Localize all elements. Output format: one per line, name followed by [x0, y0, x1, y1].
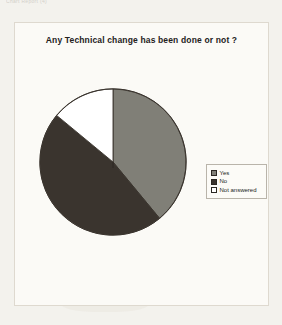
- chart-frame: Any Technical change has been done or no…: [14, 22, 269, 306]
- scanned-page: Chart Report (4) Any Technical change ha…: [0, 0, 282, 325]
- chart-legend: Yes No Not answered: [206, 164, 267, 199]
- legend-item-not-answered[interactable]: Not answered: [211, 187, 263, 194]
- legend-label-yes: Yes: [220, 170, 230, 177]
- chart-title: Any Technical change has been done or no…: [15, 35, 268, 45]
- legend-swatch-not-answered: [211, 187, 217, 193]
- legend-item-no[interactable]: No: [211, 178, 263, 185]
- scan-header-text: Chart Report (4): [6, 0, 126, 8]
- legend-swatch-no: [211, 179, 217, 185]
- legend-item-yes[interactable]: Yes: [211, 170, 263, 177]
- legend-label-no: No: [220, 178, 228, 185]
- pie-chart-svg: [39, 88, 187, 236]
- legend-label-not-answered: Not answered: [220, 187, 257, 194]
- pie-chart: [39, 88, 187, 236]
- legend-swatch-yes: [211, 170, 217, 176]
